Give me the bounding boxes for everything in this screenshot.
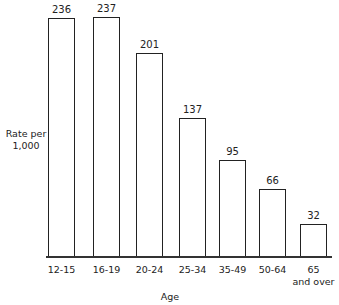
bar-value-label: 95 — [213, 146, 253, 157]
bar-value-label: 66 — [253, 175, 293, 186]
bar-value-label: 137 — [173, 104, 213, 115]
x-tick-label: 20-24 — [126, 264, 174, 276]
bar-value-label: 237 — [87, 3, 127, 14]
y-axis-label-line2: 1,000 — [2, 140, 50, 152]
x-tick-label-text: 16-19 — [83, 264, 131, 276]
bar-value-label: 201 — [130, 39, 170, 50]
x-tick-label: 12-15 — [38, 264, 86, 276]
bar-value-label: 236 — [42, 4, 82, 15]
x-tick-label-text-line2: and over — [290, 276, 338, 288]
bar-16-19 — [93, 17, 120, 256]
x-tick-label-text: 12-15 — [38, 264, 86, 276]
x-tick-label: 16-19 — [83, 264, 131, 276]
y-axis-label-line1: Rate per — [2, 128, 50, 140]
x-tick-label-text: 20-24 — [126, 264, 174, 276]
bar-35-49 — [219, 160, 246, 256]
x-axis-baseline — [46, 256, 332, 258]
x-tick-label: 65and over — [290, 264, 338, 288]
bar-65-and-over — [300, 224, 327, 256]
bar-50-64 — [259, 189, 286, 256]
x-tick-label-text: 65 — [290, 264, 338, 276]
x-axis-label: Age — [150, 291, 190, 302]
y-axis-label: Rate per 1,000 — [2, 128, 50, 152]
bar-value-label: 32 — [294, 210, 334, 221]
bar-12-15 — [48, 18, 75, 256]
bar-20-24 — [136, 53, 163, 256]
bar-25-34 — [179, 118, 206, 256]
